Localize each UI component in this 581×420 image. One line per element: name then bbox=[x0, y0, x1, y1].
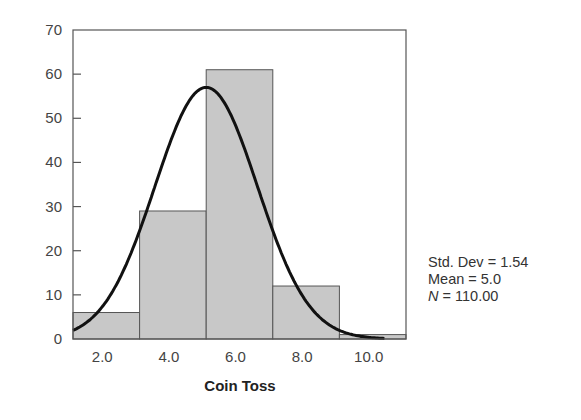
n-label: N = 110.00 bbox=[428, 288, 528, 305]
x-tick-label: 10.0 bbox=[354, 348, 383, 365]
y-tick-label: 0 bbox=[54, 330, 62, 347]
mean-label: Mean = 5.0 bbox=[428, 271, 528, 288]
n-value: = 110.00 bbox=[438, 288, 498, 304]
y-axis: 010203040506070 bbox=[45, 21, 81, 347]
x-axis: 2.04.06.08.010.0 bbox=[92, 348, 383, 365]
y-tick-label: 40 bbox=[45, 153, 62, 170]
n-symbol: N bbox=[428, 288, 438, 304]
std-dev-label: Std. Dev = 1.54 bbox=[428, 254, 528, 271]
histogram-chart: 010203040506070 2.04.06.08.010.0 Coin To… bbox=[0, 0, 581, 420]
y-tick-label: 60 bbox=[45, 65, 62, 82]
x-tick-label: 8.0 bbox=[292, 348, 313, 365]
histogram-bar bbox=[273, 286, 340, 339]
histogram-bar bbox=[140, 211, 207, 339]
y-tick-label: 20 bbox=[45, 242, 62, 259]
x-tick-label: 2.0 bbox=[92, 348, 113, 365]
x-tick-label: 6.0 bbox=[225, 348, 246, 365]
x-tick-label: 4.0 bbox=[158, 348, 179, 365]
y-tick-label: 50 bbox=[45, 109, 62, 126]
histogram-bars bbox=[73, 70, 406, 339]
y-tick-label: 30 bbox=[45, 198, 62, 215]
stats-legend: Std. Dev = 1.54 Mean = 5.0 N = 110.00 bbox=[428, 254, 528, 305]
y-tick-label: 10 bbox=[45, 286, 62, 303]
y-tick-label: 70 bbox=[45, 21, 62, 38]
x-axis-label: Coin Toss bbox=[204, 377, 275, 394]
